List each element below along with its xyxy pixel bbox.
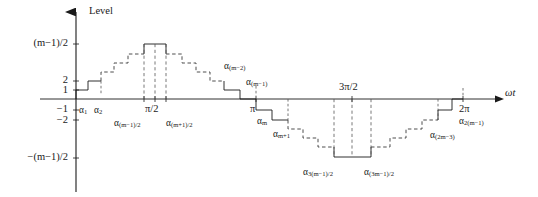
y-tick-min: −(m−1)/2 [0, 152, 68, 163]
y-tick-neg1: −1 [0, 104, 68, 115]
y-tick-2: 2 [0, 75, 68, 86]
x-tick-half-pi: π/2 [145, 104, 158, 115]
y-axis-title: Level [89, 6, 113, 17]
label-alpha-m-minus-1: α(m−1) [246, 78, 268, 88]
label-alpha-m-plus-1-over-2: α(m+1)/2 [166, 119, 193, 129]
alpha-mp1-sub: m+1 [278, 132, 290, 139]
alpha-mm1-sub: (m−1) [251, 80, 268, 87]
ascending-dashed-steps [371, 120, 438, 147]
label-alpha-2: α2 [94, 106, 102, 116]
x-tick-three-half-pi: 3π/2 [339, 82, 358, 93]
x-axis-title: ωt [505, 88, 515, 99]
alpha-1-sub: 1 [84, 108, 87, 115]
waveform-plot [0, 0, 538, 197]
rising-solid-steps [76, 81, 101, 99]
alpha-2-sub: 2 [99, 108, 102, 115]
y-tick-neg2: −2 [0, 115, 68, 126]
label-alpha-1: α1 [79, 106, 87, 116]
trough-plateau [334, 147, 371, 157]
alpha-3m1h-sub: (3m−1)/2 [369, 170, 394, 177]
label-alpha-m-plus-1: αm+1 [273, 130, 290, 140]
x-tick-pi: π [250, 104, 255, 115]
descending-dashed-steps [288, 120, 334, 147]
reference-verticals [144, 44, 371, 157]
alpha-2m3-sub: (2m−3) [435, 133, 455, 140]
alpha-m-sub: m [262, 119, 267, 126]
label-alpha-2m-minus-3: α(2m−3) [430, 131, 455, 141]
falling-dashed-steps [166, 54, 224, 81]
staircase-waveform-figure: Level ωt (m−1)/2 2 1 −1 −2 −(m−1)/2 π/2 … [0, 0, 538, 197]
y-tick-max: (m−1)/2 [0, 38, 68, 49]
label-alpha-m-minus-2: α(m−2) [224, 62, 246, 72]
alpha-3mm1h-sub: 3(m−1)/2 [308, 170, 333, 177]
alpha-mm2-sub: (m−2) [229, 64, 246, 71]
label-alpha-2-m-minus-1: α2(m−1) [459, 117, 484, 127]
rising-dashed-steps [101, 54, 144, 81]
label-alpha-m: αm [257, 117, 267, 127]
label-alpha-3-m-minus-1-over-2: α3(m−1)/2 [303, 168, 333, 178]
x-tick-two-pi: 2π [459, 104, 470, 115]
label-alpha-m-minus-1-over-2: α(m−1)/2 [114, 119, 141, 129]
alpha-mm1h-sub: (m−1)/2 [119, 121, 141, 128]
alpha-mp1h-sub: (m+1)/2 [171, 121, 193, 128]
label-alpha-3m-minus-1-over-2: α(3m−1)/2 [364, 168, 394, 178]
y-tick-1: 1 [0, 85, 68, 96]
alpha-2mm1-sub: 2(m−1) [464, 119, 484, 126]
